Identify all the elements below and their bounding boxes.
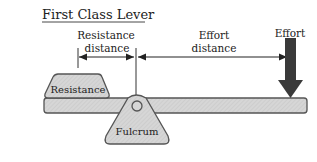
effort-force-arrow (278, 38, 303, 98)
lever-bar (44, 98, 307, 113)
diagram-title: First Class Lever (42, 7, 155, 22)
title-text: First Class Lever (42, 7, 155, 22)
first-class-lever-diagram: First Class Lever Resistance distance Ef… (0, 0, 317, 162)
resistance-distance-label-line1: Resistance (77, 29, 135, 41)
pivot-icon (132, 101, 142, 111)
fulcrum-label: Fulcrum (116, 126, 159, 137)
effort-distance-label-line1: Effort (199, 29, 230, 41)
resistance-label: Resistance (51, 84, 106, 95)
effort-label: Effort (275, 27, 306, 39)
effort-distance-label-line2: distance (192, 42, 237, 54)
resistance-distance-label-line2: distance (85, 42, 130, 54)
resistance-load: Resistance (45, 74, 109, 98)
